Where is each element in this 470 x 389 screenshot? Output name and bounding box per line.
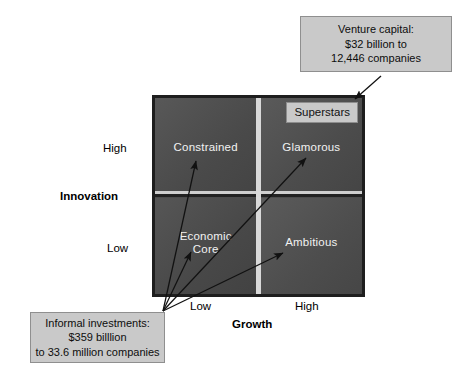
x-axis-tick-high: High [295, 300, 319, 312]
callout-informal-investments: Informal investments: $359 billlion to 3… [30, 312, 165, 363]
strategic-matrix-figure: Constrained Glamorous Economic Core Ambi… [0, 0, 470, 389]
superstars-label: Superstars [286, 102, 358, 123]
quadrant-constrained[interactable]: Constrained [155, 98, 256, 192]
y-axis-tick-low: Low [107, 242, 128, 254]
quadrant-constrained-label: Constrained [155, 141, 256, 154]
callout-venture-capital: Venture capital: $32 billion to 12,446 c… [300, 16, 452, 72]
y-axis-title: Innovation [60, 190, 118, 202]
quadrant-glamorous-label: Glamorous [261, 141, 362, 154]
matrix-plot-area: Constrained Glamorous Economic Core Ambi… [152, 95, 365, 297]
x-axis-title: Growth [232, 318, 272, 330]
quadrant-economic-core[interactable]: Economic Core [155, 198, 256, 294]
quadrant-ambitious[interactable]: Ambitious [261, 198, 362, 294]
vertical-divider [256, 98, 260, 294]
quadrant-economic-core-label: Economic Core [155, 230, 256, 256]
y-axis-tick-high: High [103, 142, 127, 154]
quadrant-ambitious-label: Ambitious [261, 236, 362, 249]
x-axis-tick-low: Low [190, 300, 211, 312]
